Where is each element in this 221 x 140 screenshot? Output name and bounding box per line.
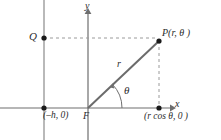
label-directrix-point: (–h, 0) (43, 111, 68, 121)
label-foot-point: (r cos θ, 0 ) (144, 112, 188, 122)
label-focus-f: F (83, 111, 89, 121)
point-q-dot (41, 35, 46, 40)
label-radius: r (117, 59, 121, 69)
label-angle-theta: θ (124, 85, 129, 96)
polar-conic-figure: Q P(r, θ ) r θ x y (–h, 0) F (r cos θ, 0… (0, 0, 221, 140)
label-point-p: P(r, θ ) (162, 28, 190, 38)
point-foot-dot (156, 105, 161, 110)
point-p-dot (156, 38, 161, 43)
radius-segment (88, 41, 159, 108)
label-point-q: Q (29, 31, 37, 42)
label-axis-x: x (175, 99, 179, 109)
label-axis-y: y (85, 1, 89, 11)
